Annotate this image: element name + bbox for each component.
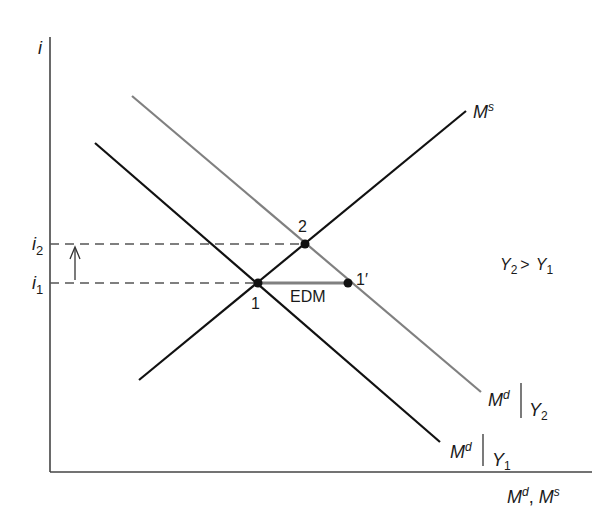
income-condition-label: Y2>Y1 — [500, 256, 553, 277]
md-y1-curve — [95, 143, 440, 442]
money-market-diagram: i i2 i1 2 1 1′ EDM Ms Y2>Y1 Md Y2 Md Y1 — [0, 0, 612, 521]
point-1 — [254, 279, 263, 288]
svg-text:Y1: Y1 — [492, 450, 511, 473]
arrow-up-icon — [70, 247, 80, 280]
y-axis-label: i — [38, 38, 43, 58]
i2-label: i2 — [32, 234, 43, 258]
point-2 — [301, 240, 310, 249]
svg-text:Md: Md — [450, 440, 472, 462]
md-y1-label: Md Y1 — [450, 434, 511, 473]
point-1-prime — [344, 279, 353, 288]
svg-text:Md: Md — [488, 388, 510, 410]
point-2-label: 2 — [298, 218, 307, 235]
x-axis-label: Md, Ms — [507, 485, 560, 507]
point-1-label: 1 — [251, 295, 260, 312]
svg-text:Y2: Y2 — [529, 400, 548, 423]
i1-label: i1 — [32, 273, 43, 297]
edm-label: EDM — [290, 288, 326, 305]
md-y2-label: Md Y2 — [488, 383, 548, 423]
point-1-prime-label: 1′ — [356, 271, 368, 288]
ms-label: Ms — [473, 100, 494, 122]
